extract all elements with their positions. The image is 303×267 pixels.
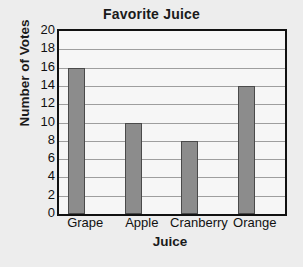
y-axis-tick-label: 18 xyxy=(28,41,55,54)
x-axis-tick-label: Orange xyxy=(227,214,284,232)
x-axis-tick-labels: GrapeAppleCranberryOrange xyxy=(57,214,283,233)
bar-cell xyxy=(229,31,286,214)
bar-cell xyxy=(172,31,229,214)
plot-frame xyxy=(57,29,287,216)
y-axis-tick-label: 6 xyxy=(28,151,55,164)
bar xyxy=(68,68,85,214)
y-axis-tick-label: 16 xyxy=(28,59,55,72)
y-axis-tick-label: 8 xyxy=(28,132,55,145)
y-axis-tick-label: 12 xyxy=(28,96,55,109)
y-axis-tick-labels: 20181614121086420 xyxy=(28,29,55,212)
y-axis-tick-label: 20 xyxy=(28,23,55,36)
bar xyxy=(125,123,142,215)
bar-chart: Favorite Juice Number of Votes 201816141… xyxy=(0,0,303,267)
x-axis-label: Juice xyxy=(57,234,283,249)
bar xyxy=(238,86,255,214)
plot-area xyxy=(59,31,285,214)
x-axis-tick-label: Apple xyxy=(114,214,171,232)
bar-cell xyxy=(59,31,116,214)
y-axis-tick-label: 14 xyxy=(28,77,55,90)
y-axis-tick-label: 2 xyxy=(28,187,55,200)
y-axis-tick-label: 4 xyxy=(28,169,55,182)
y-axis-tick-label: 10 xyxy=(28,114,55,127)
bar-cell xyxy=(116,31,173,214)
y-axis-tick-label: 0 xyxy=(28,206,55,219)
chart-title: Favorite Juice xyxy=(0,6,303,22)
x-axis-tick-label: Cranberry xyxy=(170,214,227,232)
bar xyxy=(181,141,198,214)
x-axis-tick-label: Grape xyxy=(57,214,114,232)
